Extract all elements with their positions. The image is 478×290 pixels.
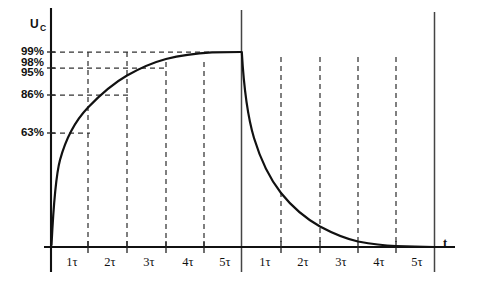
charge-tau-gridlines — [88, 52, 204, 246]
discharging-curve — [242, 52, 434, 247]
y-axis-labels: 99% 98% 95% 86% 63% — [21, 45, 44, 138]
discharge-tau-gridlines — [281, 57, 396, 246]
charging-curve — [52, 52, 242, 245]
x-label-discharge-5tau: 5τ — [411, 255, 422, 269]
x-label-discharge-4tau: 4τ — [373, 255, 384, 269]
y-label-63: 63% — [21, 126, 44, 138]
x-axis-labels-charge: 1τ 2τ 3τ 4τ 5τ — [66, 255, 230, 269]
chart-canvas: U C t 99% 98% 95% 86% 63% 1τ 2τ 3τ 4τ 5τ… — [0, 0, 478, 290]
x-label-charge-4tau: 4τ — [182, 255, 193, 269]
capacitor-voltage-chart: U C t 99% 98% 95% 86% 63% 1τ 2τ 3τ 4τ 5τ… — [0, 0, 478, 290]
x-axis-labels-discharge: 1τ 2τ 3τ 4τ 5τ — [259, 255, 422, 269]
x-label-charge-3tau: 3τ — [143, 255, 154, 269]
x-label-charge-2tau: 2τ — [104, 255, 115, 269]
y-axis-title-subscript: C — [40, 23, 46, 33]
x-label-discharge-2tau: 2τ — [297, 255, 308, 269]
y-axis-title: U C — [30, 17, 46, 33]
y-label-86: 86% — [21, 88, 44, 100]
y-axis-title-main: U — [30, 17, 39, 31]
x-label-discharge-3tau: 3τ — [335, 255, 346, 269]
x-label-charge-5tau: 5τ — [219, 255, 230, 269]
voltage-level-gridlines — [51, 52, 212, 133]
x-label-charge-1tau: 1τ — [66, 255, 77, 269]
y-label-95: 95% — [21, 66, 44, 78]
x-label-discharge-1tau: 1τ — [259, 255, 270, 269]
